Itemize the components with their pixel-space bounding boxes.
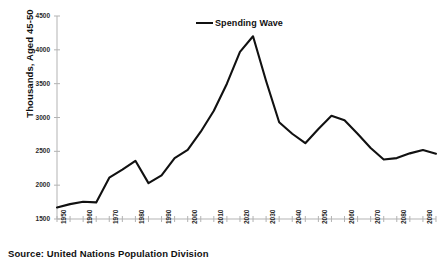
line-chart-svg bbox=[0, 4, 444, 242]
chart-plot-region: Thousands, Aged 45-50 150020002500300035… bbox=[0, 4, 444, 242]
x-tick-label: 2070 bbox=[374, 210, 381, 224]
x-tick-label: 1980 bbox=[138, 210, 145, 224]
x-tick-label: 2090 bbox=[426, 210, 433, 224]
x-tick-label: 2000 bbox=[191, 210, 198, 224]
x-tick-label: 2040 bbox=[295, 210, 302, 224]
x-tick-label: 2080 bbox=[400, 210, 407, 224]
x-tick-label: 1990 bbox=[165, 210, 172, 224]
chart-legend: Spending Wave bbox=[196, 18, 283, 28]
x-tick-label: 2010 bbox=[217, 210, 224, 224]
x-tick-label: 1960 bbox=[86, 210, 93, 224]
x-tick-label: 2050 bbox=[321, 210, 328, 224]
x-tick-label: 2030 bbox=[269, 210, 276, 224]
legend-line-swatch bbox=[196, 22, 213, 24]
y-tick-label: 4000 bbox=[24, 46, 50, 53]
y-tick-label: 2500 bbox=[24, 147, 50, 154]
x-tick-label: 1950 bbox=[60, 210, 67, 224]
y-tick-label: 2000 bbox=[24, 181, 50, 188]
spending-wave-figure: Thousands, Aged 45-50 150020002500300035… bbox=[0, 0, 444, 267]
y-tick-label: 3500 bbox=[24, 80, 50, 87]
legend-label-spending-wave: Spending Wave bbox=[215, 18, 283, 28]
x-tick-label: 1970 bbox=[112, 210, 119, 224]
x-tick-label: 2020 bbox=[243, 210, 250, 224]
x-tick-label: 2060 bbox=[348, 210, 355, 224]
y-tick-label: 3000 bbox=[24, 114, 50, 121]
y-tick-label: 1500 bbox=[24, 215, 50, 222]
y-tick-label: 4500 bbox=[24, 12, 50, 19]
series-line-spending-wave bbox=[57, 36, 436, 207]
source-note: Source: United Nations Population Divisi… bbox=[8, 248, 209, 259]
